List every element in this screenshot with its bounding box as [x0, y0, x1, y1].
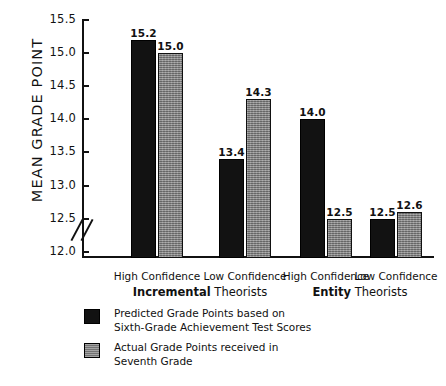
group-label-1: Incremental Theorists [120, 285, 280, 299]
bar-predicted-2 [219, 159, 244, 258]
bar-value-predicted-2: 13.4 [213, 146, 250, 158]
group-label-1-name: Incremental [133, 285, 211, 299]
bar-value-actual-3: 12.5 [321, 206, 358, 218]
legend-label-actual-line1: Actual Grade Points received in [114, 341, 278, 353]
y-tick-15.5 [82, 19, 89, 21]
y-tick-12.0 [82, 251, 89, 253]
bar-value-predicted-3: 14.0 [294, 106, 331, 118]
bar-actual-1 [158, 53, 183, 258]
chart-legend: Predicted Grade Points based on Sixth-Gr… [84, 307, 414, 375]
group-label-2-name: Entity [313, 285, 351, 299]
y-tick-14.0 [82, 118, 89, 120]
category-label-1: High Confidence [112, 270, 202, 282]
y-tick-label-12.0: 12.0 [40, 244, 76, 258]
y-tick-label-15.5: 15.5 [40, 12, 76, 26]
y-tick-label-14.0: 14.0 [40, 111, 76, 125]
bar-actual-3 [327, 219, 352, 258]
legend-label-predicted-line2: Sixth-Grade Achievement Test Scores [114, 321, 311, 333]
bar-value-predicted-1: 15.2 [125, 27, 162, 39]
bar-value-actual-1: 15.0 [152, 40, 189, 52]
y-tick-label-14.5: 14.5 [40, 78, 76, 92]
y-tick-label-12.5: 12.5 [40, 211, 76, 225]
y-tick-14.5 [82, 85, 89, 87]
legend-swatch-actual-icon [84, 343, 100, 358]
group-label-2: Entity Theorists [280, 285, 440, 299]
legend-label-predicted-line1: Predicted Grade Points based on [114, 307, 285, 319]
category-label-2: Low Confidence [200, 270, 290, 282]
bar-predicted-3 [300, 119, 325, 258]
legend-swatch-predicted-icon [84, 309, 100, 324]
y-tick-15.0 [82, 52, 89, 54]
bar-value-actual-4: 12.6 [391, 199, 428, 211]
y-tick-13.5 [82, 151, 89, 153]
group-label-2-suffix: Theorists [351, 285, 408, 299]
y-tick-label-13.5: 13.5 [40, 144, 76, 158]
bar-chart: MEAN GRADE POINT 15.515.014.514.013.513.… [0, 0, 446, 386]
category-label-4: Low Confidence [351, 270, 441, 282]
bar-predicted-4 [370, 219, 395, 258]
bar-actual-2 [246, 99, 271, 258]
group-label-1-suffix: Theorists [211, 285, 268, 299]
legend-item-predicted: Predicted Grade Points based on Sixth-Gr… [84, 307, 414, 341]
y-axis-line [82, 20, 84, 258]
y-tick-label-13.0: 13.0 [40, 178, 76, 192]
legend-item-actual: Actual Grade Points received in Seventh … [84, 341, 414, 375]
bar-predicted-1 [131, 40, 156, 258]
legend-label-actual-line2: Seventh Grade [114, 355, 193, 367]
bar-value-actual-2: 14.3 [240, 86, 277, 98]
y-tick-13.0 [82, 185, 89, 187]
bar-actual-4 [397, 212, 422, 258]
y-tick-label-15.0: 15.0 [40, 45, 76, 59]
